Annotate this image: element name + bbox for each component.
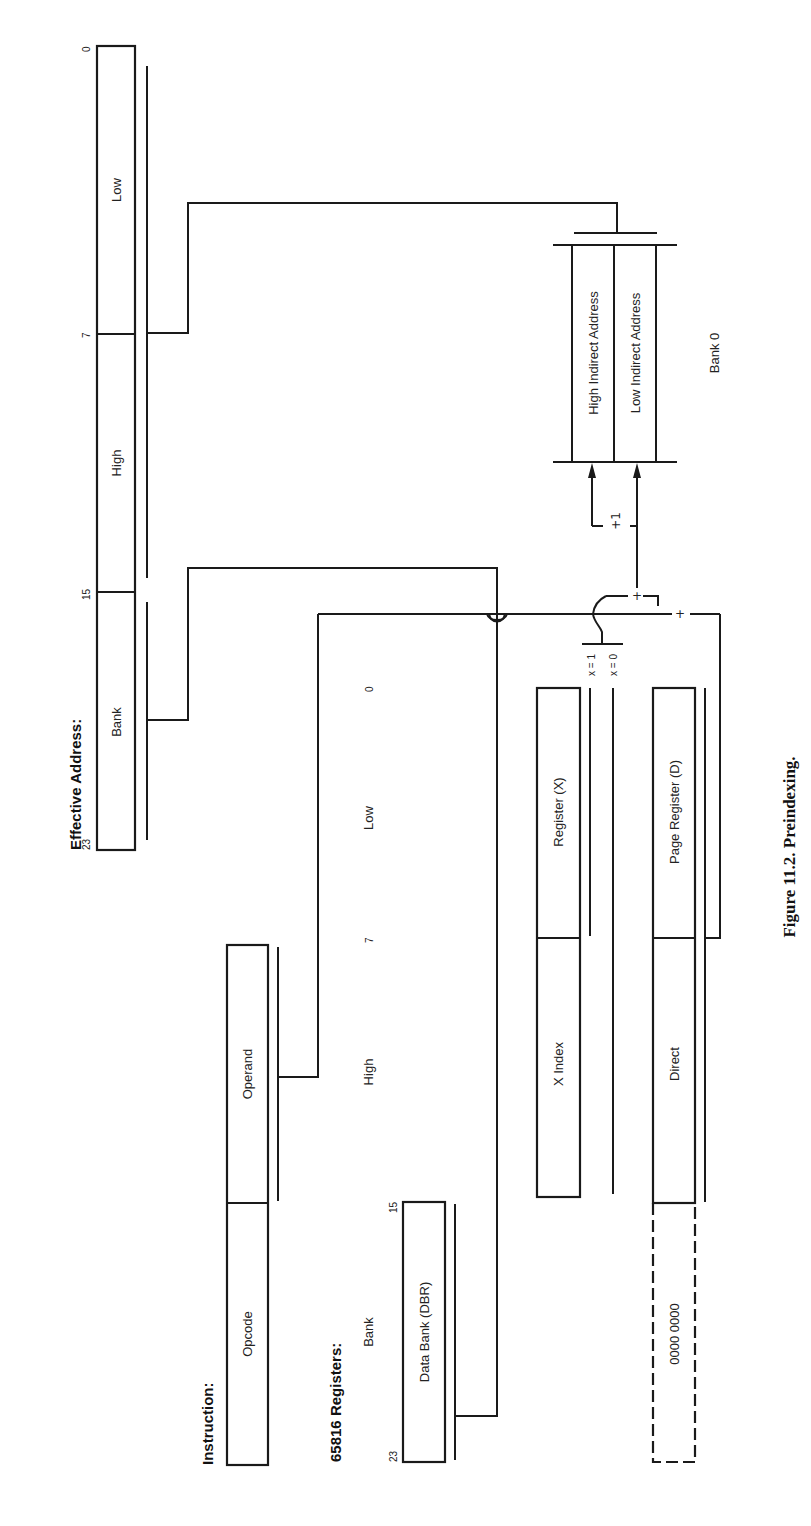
arrow-up-icon <box>588 463 596 478</box>
adder-node: + + <box>318 589 720 644</box>
ea-bit-0: 0 <box>81 46 92 52</box>
indirect-arrows: +1 <box>588 463 641 588</box>
effective-address-group: Effective Address: 23 15 7 0 Bank High L… <box>67 46 147 850</box>
instruction-title: Instruction: <box>199 1383 216 1466</box>
reg-bit-0: 0 <box>364 686 375 692</box>
direct-left: Direct <box>667 1047 682 1081</box>
x-equals-0: x = 0 <box>608 654 619 676</box>
arrow-up-icon <box>633 463 641 478</box>
ea-field-low: Low <box>109 177 124 201</box>
instruction-operand: Operand <box>240 1049 255 1100</box>
ea-bit-23: 23 <box>81 838 92 850</box>
ea-field-high: High <box>109 450 124 477</box>
dbr-label: Data Bank (DBR) <box>417 1282 432 1382</box>
ea-bit-7: 7 <box>81 332 92 338</box>
bank0-low-indirect: Low Indirect Address <box>628 292 643 413</box>
bank0-label: Bank 0 <box>707 333 722 373</box>
adder-plus-top: + <box>632 589 642 603</box>
ea-field-bank: Bank <box>109 707 124 737</box>
effective-address-title: Effective Address: <box>67 719 84 850</box>
preindexing-diagram: Effective Address: 23 15 7 0 Bank High L… <box>0 0 811 1526</box>
adder-top-right <box>643 596 658 606</box>
x-index-input-curve <box>593 596 606 644</box>
x-index-left: X Index <box>551 1041 566 1086</box>
operand-connector <box>278 614 318 1077</box>
instruction-box <box>227 945 268 1465</box>
x-index-register-box <box>537 688 580 1197</box>
col-header-high: High <box>361 1059 376 1086</box>
col-header-low: Low <box>361 805 376 829</box>
col-header-bank: Bank <box>361 1317 376 1347</box>
x-equals-1: x = 1 <box>586 654 597 676</box>
ea-bit-15: 15 <box>81 588 92 600</box>
figure-caption: Figure 11.2. Preindexing. <box>780 756 799 937</box>
reg-bit-15: 15 <box>388 1201 399 1213</box>
bank0-to-ea-connector <box>147 203 617 333</box>
instruction-group: Instruction: Opcode Operand <box>199 945 278 1465</box>
hop-placeholder <box>318 614 507 620</box>
instruction-opcode: Opcode <box>240 1311 255 1357</box>
adder-plus-right: + <box>675 607 685 621</box>
direct-zero-bank: 0000 0000 <box>667 1303 682 1364</box>
plus-one-operator: +1 <box>609 512 623 530</box>
bank0-high-indirect: High Indirect Address <box>586 291 601 415</box>
direct-right: Page Register (D) <box>667 760 682 864</box>
reg-bit-7: 7 <box>364 937 375 943</box>
bank0-group: High Indirect Address Low Indirect Addre… <box>553 233 722 462</box>
registers-group: 65816 Registers: Bank High Low 23 15 7 0… <box>327 654 705 1462</box>
x-index-right: Register (X) <box>551 777 566 846</box>
reg-bit-23: 23 <box>388 1450 399 1462</box>
registers-title: 65816 Registers: <box>327 1343 344 1462</box>
direct-page-connector <box>705 614 720 938</box>
